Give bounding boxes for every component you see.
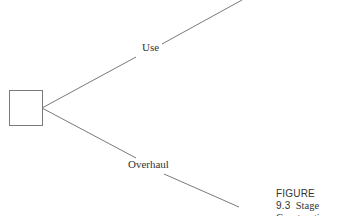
branch-label-overhaul: Overhaul bbox=[128, 158, 169, 170]
branch-line-overhaul-continued bbox=[164, 174, 239, 207]
branch-line-use bbox=[42, 57, 136, 108]
branch-label-use: Use bbox=[142, 41, 159, 53]
decision-tree-diagram bbox=[0, 0, 350, 216]
decision-node-square bbox=[10, 91, 43, 126]
figure-caption: FIGURE 9.3 Stage Construction. bbox=[276, 188, 350, 216]
caption-text-line2: Construction. bbox=[276, 212, 350, 216]
caption-text-line1: Stage bbox=[296, 200, 319, 211]
branch-line-use-continued bbox=[162, 0, 242, 44]
branch-line-overhaul bbox=[42, 108, 136, 158]
